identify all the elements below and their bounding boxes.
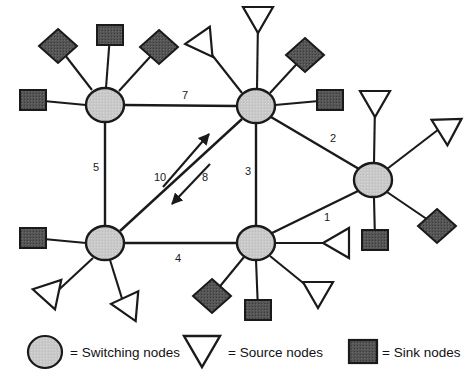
switching-node [86, 226, 124, 260]
flow-label-arrow-10: 10 [154, 171, 166, 183]
legend-swatch-sink [349, 340, 377, 363]
sink-node-square [97, 25, 123, 45]
sink-node-square [20, 228, 46, 248]
leaf-node-layer [20, 7, 462, 321]
sink-node-square [245, 300, 271, 320]
source-node-triangle [185, 27, 224, 66]
trunk-edge-1 [272, 191, 358, 233]
sink-node-diamond [286, 38, 324, 72]
source-node-triangle [110, 289, 139, 321]
source-node-triangle [323, 228, 349, 258]
source-node-triangle [243, 7, 273, 33]
sink-node-diamond [140, 30, 178, 64]
sink-node-diamond [418, 209, 456, 243]
sink-node-diamond [193, 279, 231, 313]
trunk-edge-7 [124, 105, 237, 106]
legend-sink-label: = Sink nodes [382, 345, 461, 360]
legend-source-label: = Source nodes [228, 345, 323, 360]
edge-label-edge-5: 5 [93, 161, 99, 173]
legend-switching-label: = Switching nodes [70, 345, 180, 360]
trunk-edge-diagonal [120, 119, 242, 231]
legend: = Switching nodes= Source nodes= Sink no… [28, 336, 461, 368]
switching-node [354, 163, 392, 197]
sink-node-diamond [39, 29, 77, 63]
diagram-canvas: 752314108 = Switching nodes= Source node… [0, 0, 470, 379]
edge-label-edge-1: 1 [324, 211, 330, 223]
trunk-edge-2 [271, 117, 359, 169]
edge-label-edge-2: 2 [330, 132, 336, 144]
leaf-link-leaf-r-triangle-ne [387, 126, 443, 169]
legend-swatch-source [184, 336, 220, 367]
sink-node-square [362, 230, 388, 250]
edge-label-edge-3: 3 [245, 165, 251, 177]
sink-node-square [317, 90, 343, 110]
edge-label-layer: 752314108 [93, 89, 336, 264]
edge-label-edge-4: 4 [175, 252, 181, 264]
switching-node [237, 226, 275, 260]
edge-label-edge-7: 7 [182, 89, 188, 101]
source-node-triangle [303, 282, 333, 308]
source-node-triangle [360, 91, 390, 117]
sink-node-square [20, 90, 46, 110]
flow-label-arrow-8: 8 [202, 171, 208, 183]
network-diagram: 752314108 = Switching nodes= Source node… [0, 0, 470, 379]
legend-swatch-switching [28, 336, 62, 368]
switching-node [86, 88, 124, 122]
switching-node [237, 89, 275, 123]
trunk-edge-layer [105, 105, 359, 243]
source-node-triangle [424, 107, 461, 146]
